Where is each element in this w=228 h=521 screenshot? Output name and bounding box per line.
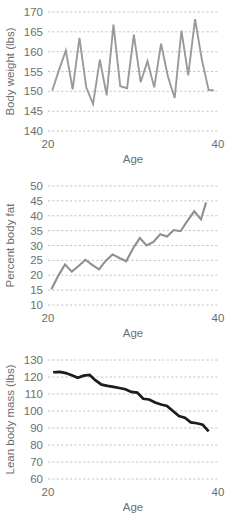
y-tick-label: 120 xyxy=(24,371,43,383)
gridlines xyxy=(48,360,218,479)
x-tick-labels: 2040 xyxy=(42,138,225,150)
y-tick-label: 45 xyxy=(30,195,43,207)
y-tick-label: 100 xyxy=(24,405,43,417)
x-tick-labels: 2040 xyxy=(42,312,225,324)
y-tick-labels: 60708090100110120130 xyxy=(24,354,43,485)
x-tick-label: 20 xyxy=(42,486,55,498)
y-tick-label: 170 xyxy=(24,6,43,18)
x-axis-title: Age xyxy=(123,153,143,165)
chart-svg-1: 1015202530354045502040AgePercent body fa… xyxy=(0,174,228,347)
y-tick-label: 160 xyxy=(24,46,43,58)
y-axis-title: Percent body fat xyxy=(4,203,16,288)
y-tick-labels: 101520253035404550 xyxy=(30,180,43,311)
x-tick-labels: 2040 xyxy=(42,486,225,498)
data-line-series xyxy=(53,372,209,432)
y-tick-label: 50 xyxy=(30,180,43,192)
x-tick-label: 40 xyxy=(212,138,225,150)
y-tick-label: 110 xyxy=(25,388,43,400)
y-tick-label: 155 xyxy=(24,66,43,78)
x-tick-label: 20 xyxy=(42,138,55,150)
gridlines xyxy=(48,12,218,131)
x-tick-label: 20 xyxy=(42,312,55,324)
x-tick-label: 40 xyxy=(212,312,225,324)
x-axis-title: Age xyxy=(123,327,143,339)
y-axis-title: Body weight (lbs) xyxy=(4,27,16,115)
y-tick-label: 80 xyxy=(30,439,43,451)
y-tick-label: 90 xyxy=(30,422,43,434)
gridlines xyxy=(48,186,218,305)
chart-svg-2: 607080901001101201302040AgeLean body mas… xyxy=(0,348,228,521)
x-tick-label: 40 xyxy=(212,486,225,498)
y-tick-labels: 140145150155160165170 xyxy=(24,6,43,137)
y-tick-label: 10 xyxy=(30,299,43,311)
y-tick-label: 20 xyxy=(30,269,43,281)
y-tick-label: 35 xyxy=(30,225,43,237)
y-tick-label: 165 xyxy=(24,26,43,38)
y-tick-label: 130 xyxy=(24,354,43,366)
chart-svg-0: 1401451501551601651702040AgeBody weight … xyxy=(0,0,228,173)
y-axis-title: Lean body mass (lbs) xyxy=(4,364,16,474)
y-tick-label: 30 xyxy=(30,240,43,252)
chart-panel-lean-body-mass: 607080901001101201302040AgeLean body mas… xyxy=(0,348,228,521)
y-tick-label: 15 xyxy=(30,284,43,296)
multi-panel-figure: 1401451501551601651702040AgeBody weight … xyxy=(0,0,228,521)
y-tick-label: 145 xyxy=(24,105,43,117)
y-tick-label: 60 xyxy=(30,473,43,485)
y-tick-label: 140 xyxy=(24,125,43,137)
chart-panel-body-weight: 1401451501551601651702040AgeBody weight … xyxy=(0,0,228,173)
y-tick-label: 40 xyxy=(30,210,43,222)
y-tick-label: 25 xyxy=(30,254,43,266)
chart-panel-percent-body-fat: 1015202530354045502040AgePercent body fa… xyxy=(0,174,228,347)
y-tick-label: 70 xyxy=(30,456,43,468)
y-tick-label: 150 xyxy=(24,85,43,97)
x-axis-title: Age xyxy=(123,501,143,513)
